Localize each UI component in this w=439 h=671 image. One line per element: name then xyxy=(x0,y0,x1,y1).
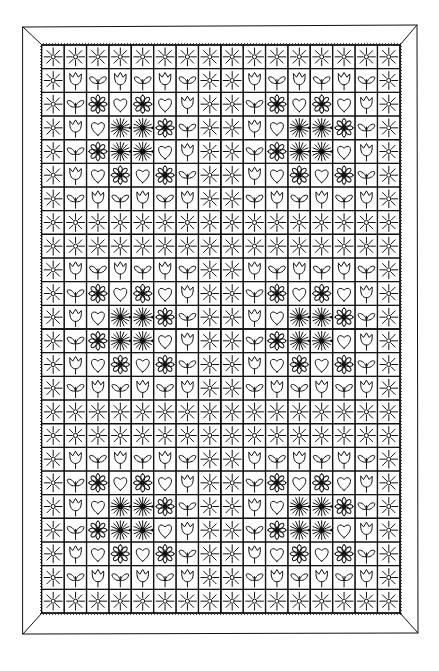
sun-motif xyxy=(44,521,62,539)
daisy-motif xyxy=(268,95,286,113)
sun-motif xyxy=(111,48,129,66)
leaf-motif xyxy=(268,266,285,279)
sun-motif xyxy=(44,48,62,66)
sun-motif xyxy=(313,237,331,255)
tulip-motif xyxy=(249,262,261,279)
quilt-block xyxy=(221,140,311,235)
tulip-motif xyxy=(271,380,283,397)
tulip-motif xyxy=(159,262,171,279)
starburst-motif xyxy=(111,308,132,327)
tulip-motif xyxy=(182,144,194,161)
sun-motif xyxy=(44,143,62,161)
leaf-motif xyxy=(67,384,84,397)
sun-motif xyxy=(201,332,219,350)
tulip-motif xyxy=(249,73,261,90)
sun-motif xyxy=(156,403,174,421)
sun-motif xyxy=(201,190,219,208)
quilt-tile xyxy=(132,353,154,377)
sun-motif xyxy=(246,427,264,445)
sun-motif xyxy=(380,166,398,184)
sun-motif xyxy=(358,403,376,421)
heart-motif xyxy=(114,478,127,491)
sun-motif xyxy=(335,237,353,255)
quilt-block xyxy=(311,234,401,329)
sun-motif xyxy=(44,450,62,468)
sun-motif xyxy=(201,592,219,610)
leaf-motif xyxy=(358,550,375,563)
heart-motif xyxy=(270,359,283,372)
heart-motif xyxy=(91,312,104,325)
leaf-motif xyxy=(246,100,263,113)
tulip-motif xyxy=(137,570,149,587)
sun-motif xyxy=(223,285,241,303)
daisy-motif xyxy=(290,355,308,373)
quilt-tile xyxy=(288,282,310,306)
quilt-tile xyxy=(154,282,176,306)
leaf-motif xyxy=(179,455,196,468)
quilt-illustration xyxy=(0,0,439,671)
starburst-motif xyxy=(290,331,311,350)
heart-motif xyxy=(338,288,351,301)
heart-motif xyxy=(315,549,328,562)
quilt-block xyxy=(42,518,132,613)
sun-motif xyxy=(246,237,264,255)
sun-motif xyxy=(223,569,241,587)
sun-motif xyxy=(89,427,107,445)
sun-motif xyxy=(335,403,353,421)
sun-motif xyxy=(67,427,85,445)
sun-motif xyxy=(67,48,85,66)
quilt-block xyxy=(221,45,311,140)
daisy-motif xyxy=(268,332,286,350)
sun-motif xyxy=(179,237,197,255)
sun-motif xyxy=(380,237,398,255)
quilt-tile xyxy=(311,353,333,377)
sun-motif xyxy=(380,214,398,232)
quilt-block xyxy=(311,424,401,519)
daisy-motif xyxy=(335,355,353,373)
leaf-motif xyxy=(313,77,330,90)
sun-motif xyxy=(201,143,219,161)
quilt-tile xyxy=(109,471,131,495)
heart-motif xyxy=(159,288,172,301)
daisy-motif xyxy=(111,355,129,373)
sun-motif xyxy=(201,119,219,137)
sun-motif xyxy=(313,48,331,66)
quilt-block xyxy=(221,234,311,329)
leaf-motif xyxy=(291,195,308,208)
leaf-motif xyxy=(179,361,196,374)
tulip-motif xyxy=(92,191,104,208)
sun-motif xyxy=(44,72,62,90)
tulip-motif xyxy=(294,73,306,90)
sun-motif xyxy=(201,379,219,397)
leaf-motif xyxy=(157,574,174,587)
sun-motif xyxy=(44,308,62,326)
daisy-motif xyxy=(156,545,174,563)
sun-motif xyxy=(67,237,85,255)
sun-motif xyxy=(44,379,62,397)
starburst-motif xyxy=(312,142,333,161)
leaf-motif xyxy=(134,266,151,279)
sun-motif xyxy=(44,592,62,610)
heart-motif xyxy=(91,170,104,183)
starburst-motif xyxy=(290,521,311,540)
sun-motif xyxy=(380,119,398,137)
sun-motif xyxy=(268,592,286,610)
quilt-tile xyxy=(266,495,288,519)
sun-motif xyxy=(44,261,62,279)
sun-motif xyxy=(156,214,174,232)
daisy-motif xyxy=(134,284,152,302)
starburst-motif xyxy=(111,497,132,516)
tulip-motif xyxy=(70,167,82,184)
sun-motif xyxy=(223,190,241,208)
leaf-motif xyxy=(89,266,106,279)
quilt-blocks xyxy=(42,45,400,613)
daisy-motif xyxy=(156,355,174,373)
sun-motif xyxy=(380,403,398,421)
sun-motif xyxy=(290,427,308,445)
tulip-motif xyxy=(316,191,328,208)
tulip-motif xyxy=(249,309,261,326)
sun-motif xyxy=(111,403,129,421)
sun-motif xyxy=(201,214,219,232)
sun-motif xyxy=(201,261,219,279)
sun-motif xyxy=(380,427,398,445)
